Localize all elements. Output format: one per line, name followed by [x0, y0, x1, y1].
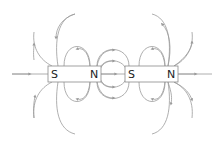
left-magnet-north-label: N — [90, 69, 98, 80]
field-lines — [0, 0, 221, 142]
left-magnet-south-label: S — [51, 69, 58, 80]
right-magnet-south-label: S — [128, 69, 135, 80]
right-magnet-north-label: N — [167, 69, 175, 80]
